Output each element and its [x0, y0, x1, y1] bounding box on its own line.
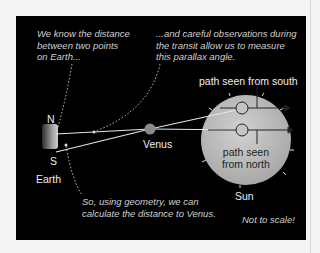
venus-icon: [145, 124, 156, 135]
annotation-line: this parallax angle.: [156, 51, 296, 63]
parallax-angle-marker: [93, 131, 96, 134]
label-path-north: path seen from north: [222, 146, 270, 170]
label-north: N: [47, 113, 55, 125]
label-sun: Sun: [235, 190, 254, 202]
annotation-line: on Earth...: [37, 51, 130, 63]
label-venus: Venus: [143, 138, 172, 150]
annotation-geometry: So, using geometry, we can calculate the…: [82, 196, 216, 219]
earth-icon: [42, 124, 58, 149]
annotation-line: calculate the distance to Venus.: [82, 208, 216, 220]
annotation-line: We know the distance: [37, 28, 130, 40]
label-earth: Earth: [36, 173, 61, 185]
label-south: S: [50, 155, 57, 167]
annotation-earth-distance: We know the distance between two points …: [37, 28, 130, 63]
label-line: from north: [222, 158, 270, 170]
scale-note: Not to scale!: [242, 214, 295, 226]
annotation-line: between two points: [37, 40, 130, 52]
label-path-south: path seen from south: [199, 75, 298, 87]
annotation-parallax: ...and careful observations during the t…: [156, 28, 296, 63]
annotation-line: the transit allow us to measure: [156, 40, 296, 52]
label-line: path seen: [222, 146, 270, 158]
annotation-line: So, using geometry, we can: [82, 196, 216, 208]
annotation-line: ...and careful observations during: [156, 28, 296, 40]
